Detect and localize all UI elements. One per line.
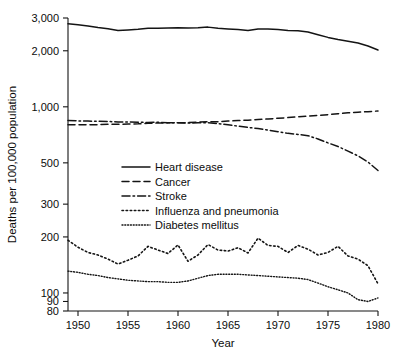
- y-tick-label: 300: [41, 198, 59, 210]
- legend-label: Cancer: [155, 176, 191, 188]
- y-tick-label: 100: [41, 287, 59, 299]
- series-line: [68, 24, 378, 50]
- series-line: [68, 271, 378, 301]
- y-tick-label: 200: [41, 231, 59, 243]
- legend-label: Heart disease: [155, 161, 223, 173]
- y-tick-label: 3,000: [31, 12, 59, 24]
- series-line: [68, 120, 378, 170]
- series-line: [68, 111, 378, 125]
- x-tick-label: 1950: [66, 319, 90, 331]
- x-tick-label: 1970: [266, 319, 290, 331]
- y-tick-label: 500: [41, 157, 59, 169]
- legend-label: Diabetes mellitus: [155, 219, 239, 231]
- chart-figure: 80901002003005001,0002,0003,000195019551…: [0, 0, 401, 351]
- legend-label: Stroke: [155, 190, 187, 202]
- x-tick-label: 1980: [366, 319, 390, 331]
- series-line: [68, 238, 378, 284]
- legend-label: Influenza and pneumonia: [155, 205, 279, 217]
- y-tick-label: 2,000: [31, 45, 59, 57]
- y-tick-label: 1,000: [31, 101, 59, 113]
- mortality-line-chart: 80901002003005001,0002,0003,000195019551…: [0, 0, 401, 351]
- x-axis-title: Year: [211, 337, 234, 349]
- x-tick-label: 1960: [166, 319, 190, 331]
- x-tick-label: 1965: [216, 319, 240, 331]
- y-axis-title: Deaths per 100,000 population: [6, 86, 18, 243]
- x-tick-label: 1955: [116, 319, 140, 331]
- x-tick-label: 1975: [316, 319, 340, 331]
